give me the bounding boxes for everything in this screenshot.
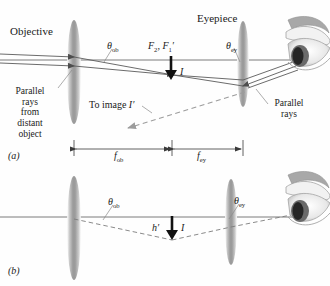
objective-lens-b [67, 176, 81, 280]
to-image-leader [142, 106, 152, 113]
ray-image-to-eyepiece-a [173, 75, 243, 86]
parallel-rays-line-4: distant [2, 118, 58, 129]
ray-image-to-eyepiece-b [173, 75, 243, 80]
exit-ray-upper [243, 61, 296, 80]
focal-length-dimensions [74, 140, 243, 156]
eye-illustration-a [286, 16, 330, 69]
dashed-ray-to-eye-b [231, 214, 296, 227]
to-image-text: To image [89, 99, 129, 110]
converging-ray-lower [74, 66, 173, 75]
panel-b-graphics [0, 171, 330, 280]
f1-prime: ′ [172, 40, 174, 51]
theta-ey-sub-a: ey [231, 46, 237, 53]
eye-illustration-b [286, 171, 330, 224]
image-arrow-b [166, 216, 178, 240]
exit-ray-extra [248, 70, 298, 88]
parallel-rays-line-3: from [2, 107, 58, 118]
objective-lens [67, 20, 81, 124]
eyepiece-lens-b [225, 179, 237, 265]
panel-b-label: (b) [8, 265, 20, 276]
panel-a-label: (a) [8, 150, 20, 161]
parallel-rays-distant-object-label: Parallel rays from distant object [2, 86, 58, 139]
parallel-rays-line-1: Parallel [2, 86, 58, 97]
exit-ray-lower [243, 66, 296, 86]
to-image-dashed-line [128, 92, 245, 128]
theta-ob-sub-a: ob [112, 46, 119, 53]
parallel-rays-line-2: rays [2, 97, 58, 108]
theta-ey-label-a: θey [226, 40, 237, 53]
f-ey-sub: ey [200, 156, 206, 163]
f1-symbol: , F [157, 40, 168, 51]
incoming-ray-lower [0, 63, 74, 66]
parallel-rays-right-label: Parallel rays [262, 98, 316, 119]
parallel-rays-right-line-1: Parallel [262, 98, 316, 109]
f-ey-label: fey [197, 150, 206, 163]
theta-ob-label-b: θob [108, 196, 120, 209]
eyepiece-lens [237, 21, 249, 107]
theta-ob-label-a: θob [107, 40, 119, 53]
image-label-b: I [181, 222, 184, 233]
eyepiece-label: Eyepiece [197, 12, 237, 24]
theta-ob-sub-b: ob [113, 202, 120, 209]
telescope-ray-diagram-figure: Objective Eyepiece θob θey F2, F1′ I Par… [0, 0, 330, 286]
theta-ey-sub-b: ey [239, 201, 245, 208]
f-ob-label: fob [114, 150, 123, 163]
objective-label: Objective [10, 25, 53, 37]
to-image-label: To image I′ [89, 99, 134, 110]
focal-points-label: F2, F1′ [148, 40, 174, 53]
incoming-ray-upper [0, 54, 74, 57]
to-image-symbol: I′ [129, 99, 135, 110]
parallel-rays-line-5: object [2, 129, 58, 140]
image-label-a: I [180, 66, 183, 77]
theta-ey-label-b: θey [234, 195, 245, 208]
h-prime-label: h′ [152, 222, 159, 233]
parallel-rays-right-line-2: rays [262, 109, 316, 120]
f-ob-sub: ob [117, 156, 124, 163]
